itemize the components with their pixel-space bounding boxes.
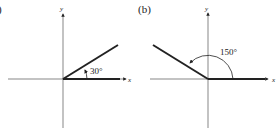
- angle-label: 150°: [220, 47, 238, 57]
- panel-a: ) x y 30°: [0, 3, 132, 128]
- x-axis-label: x: [127, 76, 132, 84]
- panel-b-label: (b): [138, 3, 151, 16]
- y-axis-label: y: [59, 5, 64, 13]
- y-axis-label: y: [204, 5, 209, 13]
- angle-arc: [190, 55, 233, 79]
- angle-diagram: ) x y 30° (b) x y 150°: [0, 0, 277, 133]
- panel-b: (b) x y 150°: [138, 3, 276, 128]
- panel-a-label: ): [0, 3, 2, 16]
- terminal-side: [153, 45, 208, 79]
- angle-arc: [85, 70, 87, 79]
- angle-label: 30°: [90, 66, 103, 76]
- x-axis-label: x: [271, 76, 276, 84]
